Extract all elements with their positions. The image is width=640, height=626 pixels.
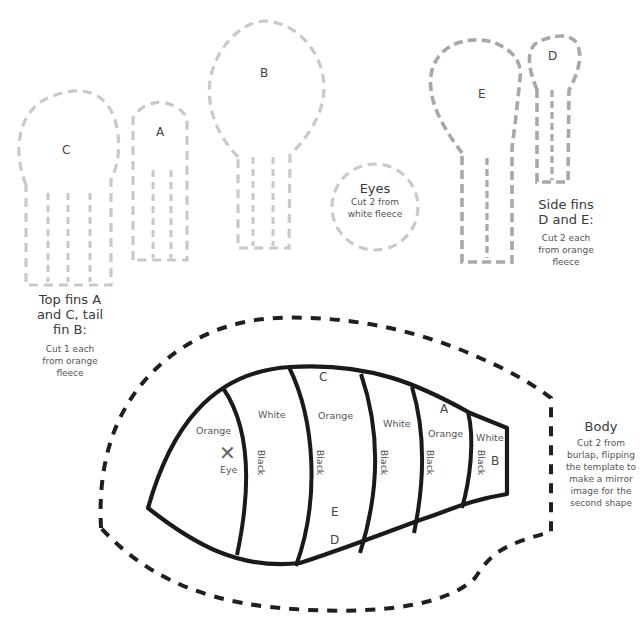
body-template	[148, 366, 507, 566]
eyes-caption: Eyes Cut 2 from white fleece	[338, 181, 412, 220]
top-fins-instr-3: fleece	[22, 367, 118, 379]
fin-c-label: C	[62, 143, 70, 157]
fin-b-label: B	[260, 66, 268, 80]
top-fins-caption: Top fins A and C, tail fin B: Cut 1 each…	[22, 292, 118, 379]
zone-5-color: Orange	[428, 428, 463, 439]
side-fins-title-1: Side fins	[526, 197, 606, 212]
top-fins-instr-2: from orange	[22, 355, 118, 367]
zone-2-color: White	[258, 409, 286, 420]
placement-d: D	[330, 533, 339, 547]
side-fins-instr-2: from orange	[526, 244, 606, 256]
fin-e-label: E	[478, 87, 486, 101]
body-instr-3: the template to	[562, 461, 640, 473]
top-fins-title-3: fin B:	[22, 322, 118, 337]
zone-5-stripe: Black	[476, 450, 487, 476]
eye-marker-icon: ✕	[219, 443, 236, 463]
fin-d-label: D	[548, 49, 557, 63]
body-instr-1: Cut 2 from	[562, 437, 640, 449]
zone-1-color: Orange	[196, 425, 231, 436]
body-instr-2: burlap, flipping	[562, 449, 640, 461]
body-title: Body	[562, 419, 640, 434]
side-fins-title-2: D and E:	[526, 212, 606, 227]
top-fins-title-1: Top fins A	[22, 292, 118, 307]
placement-e: E	[331, 505, 339, 519]
body-instr-5: image for the	[562, 485, 640, 497]
body-instr-6: second shape	[562, 497, 640, 509]
placement-b: B	[491, 454, 499, 468]
placement-c: C	[319, 370, 327, 384]
placement-a: A	[440, 402, 448, 416]
side-fins-caption: Side fins D and E: Cut 2 each from orang…	[526, 197, 606, 268]
fin-b-template	[209, 21, 324, 248]
zone-4-color: White	[383, 418, 411, 429]
zone-1-stripe: Black	[256, 450, 267, 476]
zone-4-stripe: Black	[425, 450, 436, 476]
zone-6-color: White	[476, 432, 504, 443]
eyes-instructions-1: Cut 2 from	[338, 196, 412, 208]
zone-2-stripe: Black	[315, 450, 326, 476]
fin-a-label: A	[156, 125, 164, 139]
fin-c-template	[19, 91, 119, 285]
side-fins-instr-1: Cut 2 each	[526, 232, 606, 244]
zone-3-color: Orange	[318, 410, 353, 421]
eyes-instructions-2: white fleece	[338, 208, 412, 220]
body-caption: Body Cut 2 from burlap, flipping the tem…	[562, 419, 640, 509]
body-instr-4: make a mirror	[562, 473, 640, 485]
fin-e-template	[431, 40, 521, 262]
eyes-title: Eyes	[338, 181, 412, 196]
top-fins-title-2: and C, tail	[22, 307, 118, 322]
side-fins-instr-3: fleece	[526, 256, 606, 268]
top-fins-instr-1: Cut 1 each	[22, 343, 118, 355]
zone-3-stripe: Black	[379, 450, 390, 476]
eye-label: Eye	[220, 464, 237, 475]
